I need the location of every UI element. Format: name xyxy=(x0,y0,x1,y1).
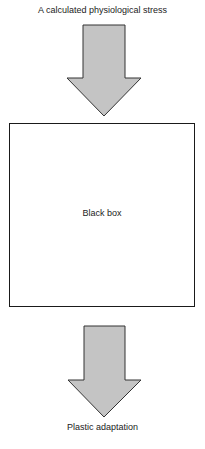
output-label: Plastic adaptation xyxy=(0,422,205,432)
output-arrow-icon xyxy=(0,0,205,449)
